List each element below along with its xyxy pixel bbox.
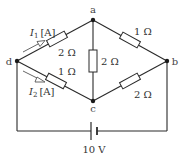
- resistor-c-b: [120, 73, 141, 89]
- node-d: [15, 59, 19, 63]
- battery-voltage-label: 10 V: [82, 144, 106, 155]
- resistor-d-c-label: 1 Ω: [58, 66, 76, 77]
- battery-icon: [91, 122, 97, 140]
- current-i2-label: I2[A]: [28, 86, 55, 99]
- circuit-diagram: 10 V 2 Ω 1 Ω 1 Ω 2 Ω 2 Ω a d c b I1[A] I…: [0, 0, 185, 161]
- node-a-label: a: [90, 4, 96, 15]
- resistor-a-b-label: 1 Ω: [134, 26, 152, 37]
- resistor-c-b-label: 2 Ω: [134, 89, 152, 100]
- resistor-a-c: [89, 50, 97, 72]
- current-arrow-i1-icon: [23, 41, 45, 53]
- node-b-label: b: [172, 56, 178, 67]
- current-arrow-i2-icon: [23, 71, 45, 82]
- node-b: [165, 59, 169, 63]
- resistor-a-c-label: 2 Ω: [101, 56, 119, 67]
- node-d-label: d: [6, 56, 13, 67]
- node-c-label: c: [90, 103, 96, 114]
- node-a: [91, 18, 95, 22]
- resistor-d-a-label: 2 Ω: [58, 47, 76, 58]
